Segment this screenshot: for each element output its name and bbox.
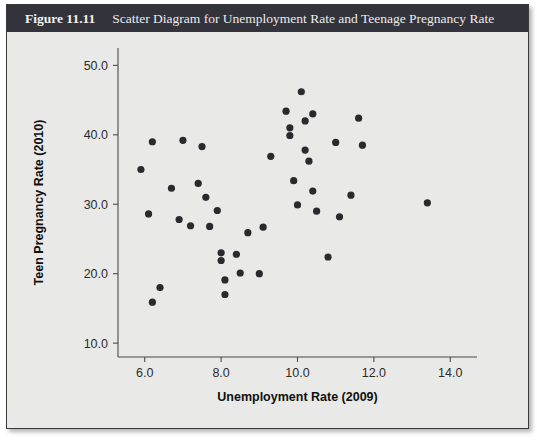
figure-container: Figure 11.11 Scatter Diagram for Unemplo…	[6, 4, 529, 429]
data-points-group	[137, 88, 431, 306]
scatter-plot: 10.020.030.040.050.0 6.08.010.012.014.0 …	[7, 32, 530, 430]
chart-panel: 10.020.030.040.050.0 6.08.010.012.014.0 …	[7, 32, 528, 428]
x-axis-ticks: 6.08.010.012.014.0	[136, 357, 462, 380]
scatter-point	[313, 208, 320, 215]
scatter-point	[302, 117, 309, 124]
scatter-point	[256, 270, 263, 277]
x-tick-label: 10.0	[285, 366, 309, 380]
scatter-point	[332, 139, 339, 146]
scatter-point	[294, 201, 301, 208]
x-tick-label: 6.0	[136, 366, 153, 380]
scatter-point	[221, 291, 228, 298]
scatter-point	[218, 257, 225, 264]
scatter-point	[187, 222, 194, 229]
scatter-point	[282, 108, 289, 115]
scatter-point	[198, 143, 205, 150]
scatter-point	[309, 110, 316, 117]
scatter-point	[149, 299, 156, 306]
scatter-point	[179, 137, 186, 144]
scatter-point	[336, 213, 343, 220]
scatter-point	[168, 185, 175, 192]
y-tick-label: 20.0	[84, 267, 108, 281]
scatter-point	[149, 138, 156, 145]
scatter-point	[156, 284, 163, 291]
scatter-point	[424, 199, 431, 206]
y-axis-ticks: 10.020.030.040.050.0	[84, 59, 118, 351]
scatter-point	[233, 251, 240, 258]
y-tick-label: 40.0	[84, 128, 108, 142]
x-axis-title: Unemployment Rate (2009)	[217, 390, 377, 404]
scatter-point	[290, 177, 297, 184]
x-tick-label: 8.0	[212, 366, 229, 380]
scatter-point	[145, 210, 152, 217]
scatter-point	[309, 187, 316, 194]
scatter-point	[237, 269, 244, 276]
x-tick-label: 14.0	[438, 366, 462, 380]
figure-number: Figure 11.11	[25, 11, 95, 27]
y-tick-label: 50.0	[84, 59, 108, 73]
y-axis-title: Teen Pregnancy Rate (2010)	[32, 120, 46, 286]
figure-caption: Scatter Diagram for Unemployment Rate an…	[112, 11, 494, 27]
scatter-point	[359, 142, 366, 149]
y-tick-label: 30.0	[84, 198, 108, 212]
scatter-point	[218, 249, 225, 256]
scatter-point	[324, 253, 331, 260]
scatter-point	[286, 124, 293, 131]
scatter-point	[355, 115, 362, 122]
scatter-point	[286, 132, 293, 139]
scatter-point	[260, 224, 267, 231]
scatter-point	[298, 88, 305, 95]
scatter-point	[206, 223, 213, 230]
scatter-point	[302, 146, 309, 153]
scatter-point	[195, 180, 202, 187]
y-tick-label: 10.0	[84, 337, 108, 351]
scatter-point	[267, 153, 274, 160]
scatter-point	[137, 166, 144, 173]
scatter-point	[305, 158, 312, 165]
scatter-point	[221, 276, 228, 283]
scatter-point	[244, 229, 251, 236]
scatter-point	[202, 194, 209, 201]
scatter-point	[214, 207, 221, 214]
figure-title-bar: Figure 11.11 Scatter Diagram for Unemplo…	[7, 5, 528, 32]
scatter-point	[347, 192, 354, 199]
scatter-point	[176, 216, 183, 223]
x-tick-label: 12.0	[362, 366, 386, 380]
